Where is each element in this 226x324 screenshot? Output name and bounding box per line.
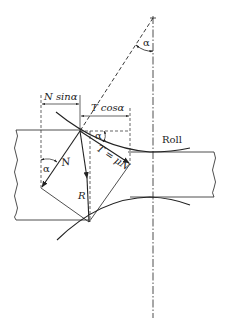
resultant-force-arrow [80,131,87,178]
roll-centerline [150,16,156,318]
alpha-label-left: α [43,163,50,174]
workpiece-strip [15,130,216,220]
friction-force-label: T = μN [95,143,133,173]
lower-roll-arc [57,197,190,240]
upper-roll-arc [56,112,190,152]
resultant-force-label: R [77,190,86,201]
normal-force-label: N [60,156,72,168]
alpha-arc-left [41,159,57,162]
t-cos-label: T cosα [91,102,125,113]
n-sin-label: N sinα [43,91,78,102]
alpha-label-contact: α [95,130,102,141]
alpha-label-top: α [143,37,150,48]
n-sin-dimension [41,95,80,190]
roll-label: Roll [162,134,182,145]
rolling-force-diagram: α N sinα T cosα α α [0,0,226,324]
radius-line [80,18,153,131]
